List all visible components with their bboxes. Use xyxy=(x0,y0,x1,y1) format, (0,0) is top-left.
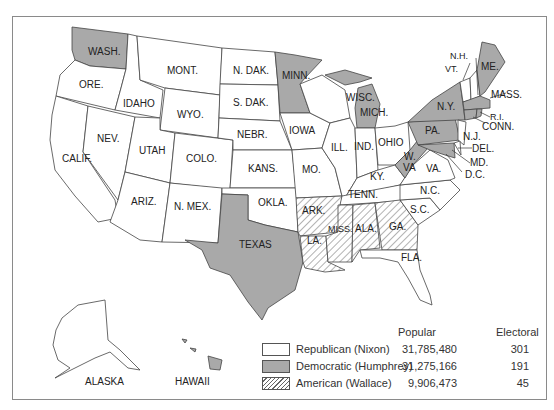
label-ky: KY. xyxy=(370,171,385,182)
label-ny: N.Y. xyxy=(437,101,455,112)
legend-electoral: 191 xyxy=(507,360,529,372)
label-kans: KANS. xyxy=(248,163,278,174)
label-ore: ORE. xyxy=(79,79,103,90)
label-colo: COLO. xyxy=(186,153,217,164)
label-nev: NEV. xyxy=(97,133,119,144)
label-wash: WASH. xyxy=(88,46,120,57)
label-mont: MONT. xyxy=(167,65,198,76)
state-ri[interactable] xyxy=(476,109,482,118)
label-nj: N.J. xyxy=(463,131,481,142)
label-alaska: ALASKA xyxy=(85,376,124,387)
legend-name: American (Wallace) xyxy=(296,377,392,389)
legend-header-electoral: Electoral xyxy=(496,326,539,338)
label-va: VA. xyxy=(426,163,441,174)
label-mich: MICH. xyxy=(360,107,388,118)
label-texas: TEXAS xyxy=(239,239,272,250)
label-ark: ARK. xyxy=(302,205,325,216)
label-me: ME. xyxy=(481,61,499,72)
legend-electoral: 45 xyxy=(507,377,529,389)
label-wyo: WYO. xyxy=(177,109,204,120)
label-ga: GA. xyxy=(389,221,406,232)
legend-header-popular: Popular xyxy=(398,326,436,338)
legend-name: Democratic (Humphrey) xyxy=(296,360,413,372)
label-dc: D.C. xyxy=(465,169,485,180)
label-wva1: W. xyxy=(404,151,416,162)
label-ohio: OHIO xyxy=(378,137,404,148)
legend-row-republican: Republican (Nixon) 31,785,480 301 xyxy=(262,343,547,358)
legend-popular: 31,785,480 xyxy=(402,343,457,355)
legend-row-democratic: Democratic (Humphrey) 31,275,166 191 xyxy=(262,360,547,375)
label-tenn: TENN. xyxy=(348,189,378,200)
label-pa: PA. xyxy=(425,125,440,136)
democratic-swatch xyxy=(262,360,290,373)
label-minn: MINN. xyxy=(282,70,310,81)
label-nh: N.H. xyxy=(450,51,468,61)
label-ndak: N. DAK. xyxy=(233,65,269,76)
label-iowa: IOWA xyxy=(289,125,316,136)
label-nc: N.C. xyxy=(420,185,440,196)
label-md: MD. xyxy=(470,157,488,168)
label-la: LA. xyxy=(307,235,322,246)
label-ind: IND. xyxy=(354,141,374,152)
label-utah: UTAH xyxy=(139,145,165,156)
state-nmex[interactable] xyxy=(162,183,222,243)
label-nebr: NEBR. xyxy=(237,129,268,140)
label-okla: OKLA. xyxy=(258,197,287,208)
legend-popular: 9,906,473 xyxy=(408,377,457,389)
label-nmex: N. MEX. xyxy=(174,201,211,212)
state-hawaii[interactable] xyxy=(182,339,222,370)
label-fla: FLA. xyxy=(401,252,422,263)
label-sc: S.C. xyxy=(410,204,429,215)
label-conn: CONN. xyxy=(482,121,514,132)
label-ill: ILL. xyxy=(331,142,348,153)
label-miss: MISS. xyxy=(328,224,353,234)
label-ala: ALA. xyxy=(355,223,377,234)
american-swatch xyxy=(262,377,290,390)
republican-swatch xyxy=(262,343,290,356)
label-del: DEL. xyxy=(472,143,494,154)
label-sdak: S. DAK. xyxy=(233,97,269,108)
label-wva2: VA xyxy=(403,162,416,173)
label-ariz: ARIZ. xyxy=(131,196,157,207)
legend-popular: 31,275,166 xyxy=(402,360,457,372)
label-mo: MO. xyxy=(302,164,321,175)
legend-electoral: 301 xyxy=(507,343,529,355)
label-hawaii: HAWAII xyxy=(175,376,210,387)
label-wisc: WISC. xyxy=(346,92,375,103)
legend-row-american: American (Wallace) 9,906,473 45 xyxy=(262,377,547,392)
state-alaska[interactable] xyxy=(53,300,140,378)
label-idaho: IDAHO xyxy=(123,98,155,109)
legend-name: Republican (Nixon) xyxy=(296,343,390,355)
label-mass: MASS. xyxy=(491,89,522,100)
label-vt: VT. xyxy=(445,64,458,74)
label-calif: CALIF. xyxy=(62,153,92,164)
